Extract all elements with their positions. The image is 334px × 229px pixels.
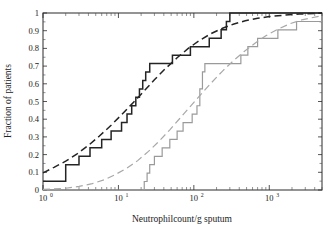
x-tick-label: 100 [39,192,53,203]
empirical-cdf-group-a [43,13,322,181]
svg-text:0: 0 [50,192,53,198]
svg-text:2: 2 [201,192,204,198]
data-curves [43,13,322,190]
svg-text:3: 3 [276,192,279,198]
axes-frame [43,13,322,190]
y-tick-label: 1 [35,8,39,18]
x-tick-label: 101 [114,192,128,203]
y-tick-label: 0.5 [28,97,39,107]
cdf-chart: 00.10.20.30.40.50.60.70.80.9110010110210… [0,0,334,229]
svg-text:10: 10 [114,193,123,203]
x-tick-label: 102 [190,192,204,203]
empirical-cdf-group-b [43,22,322,191]
x-axis-title: Neutrophilcount/g sputum [132,214,233,224]
svg-text:10: 10 [39,193,48,203]
y-tick-label: 0.9 [28,26,39,36]
y-tick-label: 0.4 [28,114,39,124]
x-tick-label: 103 [265,192,279,203]
svg-text:10: 10 [190,193,199,203]
y-axis-title: Fraction of patients [3,64,13,138]
y-tick-label: 0.6 [28,79,39,89]
y-tick-label: 0.1 [28,167,39,177]
figure-container: 00.10.20.30.40.50.60.70.80.9110010110210… [0,0,334,229]
y-tick-label: 0.7 [28,61,39,71]
svg-text:10: 10 [265,193,274,203]
lognormal-fit-group-a [43,13,322,173]
y-tick-label: 0.3 [28,132,39,142]
svg-text:1: 1 [125,192,128,198]
plot-frame [43,13,322,190]
lognormal-fit-group-b [43,16,322,190]
axis-ticks [43,13,322,190]
y-tick-label: 0.8 [28,43,39,53]
y-tick-label: 0.2 [28,150,39,160]
